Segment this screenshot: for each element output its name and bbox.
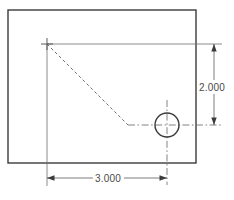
- vertical-dimension-arrow-top: [211, 44, 216, 52]
- part-outline-rectangle: [8, 10, 196, 163]
- engineering-drawing-svg: 2.000 3.000: [0, 0, 234, 200]
- hidden-chamfer-edge: [47, 44, 128, 125]
- vertical-dimension-group: 2.000: [199, 44, 225, 125]
- horizontal-dimension-arrow-left: [47, 175, 55, 180]
- technical-drawing-canvas: 2.000 3.000: [0, 0, 234, 200]
- vertical-dimension-value: 2.000: [199, 82, 225, 93]
- horizontal-dimension-arrow-right: [160, 175, 168, 180]
- horizontal-dimension-value: 3.000: [95, 173, 121, 184]
- horizontal-dimension-group: 3.000: [47, 173, 167, 184]
- vertical-dimension-arrow-bottom: [211, 118, 216, 126]
